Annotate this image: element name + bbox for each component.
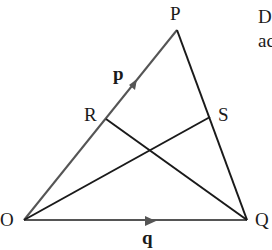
label-point-o: O	[0, 210, 14, 229]
label-point-r: R	[84, 105, 97, 124]
cropped-text-line-2: ac	[258, 30, 272, 53]
segment-rq	[106, 119, 247, 220]
segment-pq	[177, 30, 247, 220]
triangle-diagram	[0, 0, 272, 250]
label-vector-q: q	[142, 228, 153, 247]
label-point-p: P	[170, 4, 181, 23]
cropped-text-line-1: D	[258, 6, 272, 29]
arrowhead-q-icon	[145, 216, 156, 226]
label-point-q: Q	[255, 210, 269, 229]
label-vector-p: p	[113, 64, 124, 83]
segment-os	[24, 117, 210, 220]
label-point-s: S	[218, 105, 229, 124]
segment-op	[24, 30, 177, 220]
